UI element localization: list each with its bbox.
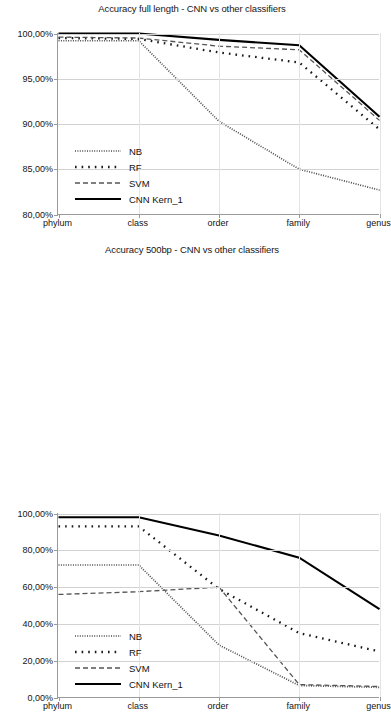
- legend-item-cnn-kern-1: CNN Kern_1: [74, 191, 183, 207]
- legend-label: CNN Kern_1: [129, 194, 183, 205]
- x-tick-label: phylum: [43, 701, 72, 711]
- legend-swatch: [74, 193, 122, 205]
- chart-accuracy-full-length: Accuracy full length - CNN vs other clas…: [0, 0, 384, 240]
- y-tick-label: 95,00%: [22, 74, 53, 84]
- legend-label: NB: [129, 631, 142, 642]
- legend-swatch: [74, 177, 122, 189]
- y-tick-label: 60,00%: [22, 582, 53, 592]
- legend-label: NB: [129, 146, 142, 157]
- y-tick-mark: [54, 169, 58, 170]
- legend-item-rf: RF: [74, 159, 183, 175]
- vertical-gridline: [380, 33, 381, 214]
- chart-accuracy-500bp: Accuracy 500bp - CNN vs other classifier…: [0, 240, 384, 496]
- vertical-gridline: [219, 33, 220, 214]
- legend-item-rf: RF: [74, 644, 183, 660]
- y-tick-label: 80,00%: [22, 545, 53, 555]
- x-axis-labels: phylumclassorderfamilygenus: [57, 218, 379, 234]
- x-axis-labels: phylumclassorderfamilygenus: [57, 701, 379, 715]
- legend-item-svm: SVM: [74, 175, 183, 191]
- legend-item-cnn-kern-1: CNN Kern_1: [74, 676, 183, 692]
- vertical-gridline: [299, 513, 300, 697]
- chart-title: Accuracy 500bp - CNN vs other classifier…: [0, 244, 384, 255]
- legend-item-nb: NB: [74, 143, 183, 159]
- legend: NBRFSVMCNN Kern_1: [74, 628, 183, 692]
- y-tick-label: 100,00%: [17, 509, 53, 519]
- x-tick-label: order: [207, 218, 228, 228]
- y-tick-mark: [54, 124, 58, 125]
- x-tick-label: family: [286, 701, 310, 711]
- y-tick-mark: [54, 514, 58, 515]
- legend: NBRFSVMCNN Kern_1: [74, 143, 183, 207]
- y-tick-mark: [54, 661, 58, 662]
- y-tick-mark: [54, 550, 58, 551]
- x-tick-label: family: [286, 218, 310, 228]
- y-tick-mark: [54, 624, 58, 625]
- legend-label: CNN Kern_1: [129, 679, 183, 690]
- x-tick-label: genus: [366, 218, 391, 228]
- legend-swatch: [74, 646, 122, 658]
- y-tick-mark: [54, 79, 58, 80]
- x-tick-label: class: [127, 218, 148, 228]
- y-tick-mark: [54, 698, 58, 699]
- y-tick-label: 90,00%: [22, 119, 53, 129]
- vertical-gridline: [219, 513, 220, 697]
- legend-label: RF: [129, 647, 142, 658]
- y-tick-mark: [54, 34, 58, 35]
- x-tick-label: class: [127, 701, 148, 711]
- y-tick-mark: [54, 215, 58, 216]
- y-tick-label: 100,00%: [17, 29, 53, 39]
- legend-label: SVM: [129, 178, 150, 189]
- y-tick-label: 85,00%: [22, 164, 53, 174]
- chart-title: Accuracy full length - CNN vs other clas…: [0, 3, 384, 14]
- legend-item-nb: NB: [74, 628, 183, 644]
- x-tick-label: phylum: [43, 218, 72, 228]
- legend-swatch: [74, 678, 122, 690]
- legend-label: RF: [129, 162, 142, 173]
- vertical-gridline: [299, 33, 300, 214]
- x-tick-label: genus: [366, 701, 391, 711]
- legend-label: SVM: [129, 663, 150, 674]
- y-axis-labels: 80,00%85,00%90,00%95,00%100,00%: [0, 33, 53, 215]
- x-tick-label: order: [207, 701, 228, 711]
- y-axis-labels: 0,00%20,00%40,00%60,00%80,00%100,00%: [0, 513, 53, 698]
- y-tick-mark: [54, 587, 58, 588]
- y-tick-label: 40,00%: [22, 619, 53, 629]
- vertical-gridline: [380, 513, 381, 697]
- legend-swatch: [74, 161, 122, 173]
- legend-swatch: [74, 630, 122, 642]
- y-tick-label: 20,00%: [22, 656, 53, 666]
- legend-swatch: [74, 145, 122, 157]
- legend-swatch: [74, 662, 122, 674]
- legend-item-svm: SVM: [74, 660, 183, 676]
